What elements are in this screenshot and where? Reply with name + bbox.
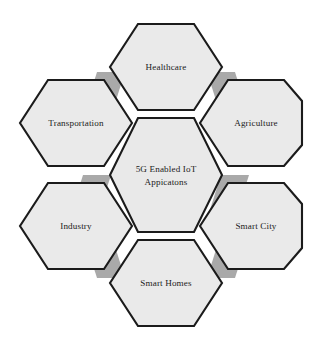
hexagon-center-shape (110, 118, 222, 232)
hex-node-smart-homes[interactable]: Smart Homes (110, 240, 222, 326)
hex-label-smart-city: Smart City (235, 221, 276, 231)
hex-label-industry: Industry (60, 221, 92, 231)
hex-node-healthcare[interactable]: Healthcare (110, 24, 222, 110)
hexagon-cluster-canvas: Healthcare Transportation Agriculture 5G… (0, 0, 323, 350)
hex-label-transportation: Transportation (48, 118, 104, 128)
hex-label-center-line1: 5G Enabled IoT (136, 164, 197, 174)
hex-node-center[interactable]: 5G Enabled IoT Appicatons (110, 118, 222, 232)
hex-label-smart-homes: Smart Homes (140, 278, 192, 288)
hex-label-center-line2: Appicatons (145, 177, 188, 187)
hex-label-agriculture: Agriculture (234, 118, 278, 128)
hex-label-healthcare: Healthcare (146, 62, 187, 72)
hexagon-diagram: Healthcare Transportation Agriculture 5G… (0, 0, 323, 350)
